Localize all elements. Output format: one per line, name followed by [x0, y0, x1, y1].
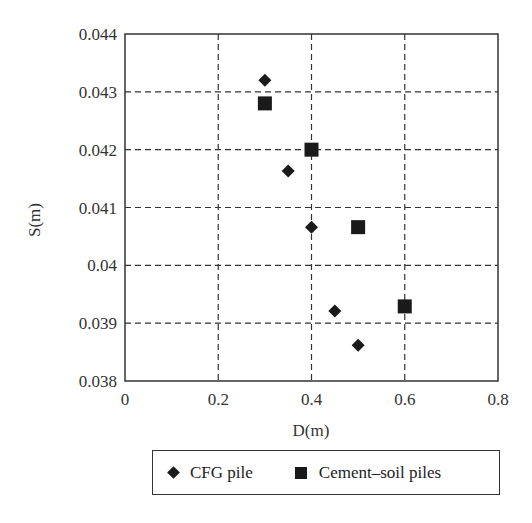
diamond-marker-icon [282, 165, 295, 178]
y-tick-label: 0.04 [87, 256, 117, 275]
diamond-marker-icon [167, 466, 180, 479]
grid-lines [125, 34, 498, 381]
y-axis-ticks: 0.0380.0390.040.0410.0420.0430.044 [79, 25, 118, 391]
x-tick-label: 0.4 [301, 390, 323, 409]
y-tick-label: 0.039 [79, 314, 117, 333]
legend: CFG pile Cement–soil piles [152, 450, 500, 495]
diamond-marker-icon [305, 221, 318, 234]
square-marker-icon [258, 96, 272, 110]
x-axis-label: D(m) [293, 421, 330, 440]
y-tick-label: 0.041 [79, 199, 117, 218]
x-axis-ticks: 00.20.40.60.8 [121, 390, 509, 409]
y-tick-label: 0.042 [79, 141, 117, 160]
y-axis-label: S(m) [25, 203, 44, 237]
legend-item-cement-soil-piles: Cement–soil piles [295, 463, 441, 483]
legend-label: Cement–soil piles [319, 463, 441, 483]
diamond-marker-icon [352, 339, 365, 352]
y-tick-label: 0.038 [79, 372, 117, 391]
square-marker-icon [305, 143, 319, 157]
diamond-marker-icon [328, 305, 341, 318]
x-tick-label: 0.8 [487, 390, 508, 409]
y-tick-label: 0.044 [79, 25, 118, 44]
square-marker-icon [295, 467, 307, 479]
x-tick-label: 0.6 [394, 390, 415, 409]
square-marker-icon [351, 220, 365, 234]
data-points [258, 74, 412, 352]
x-tick-label: 0 [121, 390, 130, 409]
y-tick-label: 0.043 [79, 83, 117, 102]
diamond-marker-icon [258, 74, 271, 87]
legend-label: CFG pile [190, 463, 253, 483]
scatter-chart: 00.20.40.60.8 0.0380.0390.040.0410.0420.… [0, 0, 532, 523]
legend-item-cfg-pile: CFG pile [169, 463, 253, 483]
square-marker-icon [398, 299, 412, 313]
x-tick-label: 0.2 [208, 390, 229, 409]
